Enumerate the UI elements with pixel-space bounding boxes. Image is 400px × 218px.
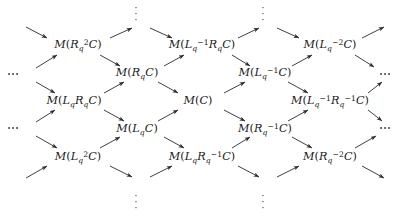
diagram-node: M(C)	[183, 95, 212, 106]
diagram-arrow	[158, 82, 178, 93]
diagram-arrow	[158, 110, 178, 121]
diagram-arrow	[36, 110, 55, 122]
diagram-node: M(Lq−1RqC)	[169, 39, 236, 50]
horizontal-ellipsis: ⋯	[7, 67, 21, 81]
diagram-arrow	[150, 28, 172, 38]
diagram-arrow	[355, 136, 376, 148]
diagram-arrow	[238, 28, 259, 38]
diagram-arrow	[292, 55, 312, 66]
diagram-arrow	[224, 82, 245, 93]
diagram-arrow	[100, 137, 120, 148]
diagram-arrow	[164, 137, 184, 148]
diagram-arrow	[36, 136, 57, 148]
diagram-arrow	[150, 166, 172, 177]
diagram-arrow	[238, 166, 259, 177]
horizontal-ellipsis: ⋯	[379, 67, 393, 81]
arrow-layer	[0, 0, 400, 218]
diagram-node: M(Rq2C)	[54, 39, 102, 50]
diagram-arrow	[277, 166, 299, 177]
diagram-arrow	[355, 55, 374, 67]
diagram-arrow	[100, 55, 120, 66]
diagram-arrow	[104, 82, 124, 93]
diagram-arrow	[26, 166, 47, 178]
diagram-arrow	[224, 110, 245, 121]
diagram-arrow	[368, 110, 382, 121]
diagram-arrow	[164, 55, 184, 66]
diagram-node: M(Lq−1C)	[238, 67, 291, 78]
diagram-arrow	[288, 82, 308, 93]
diagram-node: M(Lq−1Rq−1C)	[291, 95, 369, 106]
diagram-node: M(Rq−2C)	[303, 151, 357, 162]
horizontal-ellipsis: ⋯	[7, 121, 21, 135]
diagram-node: M(Lq2C)	[55, 151, 102, 162]
diagram-arrow	[110, 166, 132, 177]
diagram-arrow	[26, 27, 47, 38]
diagram-node: M(LqRq−1C)	[169, 151, 236, 162]
horizontal-ellipsis: ⋯	[379, 121, 393, 135]
diagram-arrow	[104, 110, 124, 121]
diagram-arrow	[232, 55, 250, 66]
vertical-ellipsis: ···	[262, 193, 265, 211]
diagram-arrow	[362, 166, 384, 178]
diagram-arrow	[368, 82, 382, 93]
diagram-arrow	[292, 137, 312, 148]
diagram-node: M(Rq−1C)	[238, 123, 292, 134]
diagram-node: M(LqC)	[116, 123, 158, 134]
diagram-node: M(LqRqC)	[46, 95, 101, 106]
diagram-arrow	[36, 55, 57, 68]
diagram-arrow	[362, 27, 384, 38]
diagram-arrow	[232, 137, 250, 148]
diagram-arrow	[36, 82, 55, 93]
vertical-ellipsis: ···	[262, 5, 265, 23]
vertical-ellipsis: ···	[135, 5, 138, 23]
diagram-arrow	[110, 28, 132, 38]
commutative-diagram: M(Rq2C)M(Lq−1RqC)M(Lq−2C)M(RqC)M(Lq−1C)M…	[0, 0, 400, 218]
vertical-ellipsis: ···	[135, 193, 138, 211]
diagram-node: M(RqC)	[116, 67, 159, 78]
diagram-arrow	[277, 28, 299, 38]
diagram-arrow	[288, 110, 308, 121]
diagram-node: M(Lq−2C)	[303, 39, 356, 50]
